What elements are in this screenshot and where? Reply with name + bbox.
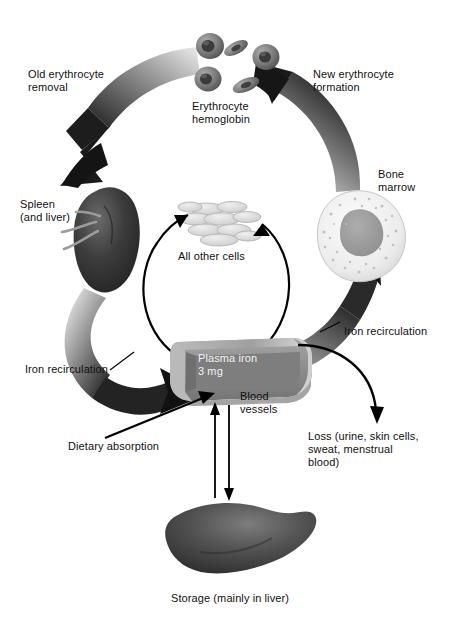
label-all-other-cells: All other cells bbox=[178, 250, 288, 263]
label-plasma-iron: Plasma iron 3 mg bbox=[198, 352, 294, 378]
liver-organ bbox=[165, 503, 316, 574]
flow-liver-exchange bbox=[215, 405, 229, 498]
bone-marrow-cell bbox=[317, 191, 405, 282]
label-old-erythrocyte-removal: Old erythrocyte removal bbox=[28, 68, 138, 94]
label-iron-recirculation-left: Iron recirculation bbox=[0, 363, 108, 376]
label-spleen-and-liver: Spleen (and liver) bbox=[20, 198, 98, 224]
all-other-cells-cluster bbox=[178, 202, 261, 247]
label-storage: Storage (mainly in liver) bbox=[130, 592, 330, 605]
plasma-to-liver-arrowhead bbox=[224, 488, 234, 501]
label-new-erythrocyte-formation: New erythrocyte formation bbox=[313, 68, 433, 94]
label-dietary-absorption: Dietary absorption bbox=[68, 440, 198, 453]
label-bone-marrow: Bone marrow bbox=[378, 168, 448, 194]
label-loss: Loss (urine, skin cells, sweat, menstrua… bbox=[308, 430, 458, 469]
iron-cycle-diagram: Old erythrocyte removal New erythrocyte … bbox=[0, 0, 458, 623]
label-iron-recirculation-right: Iron recirculation bbox=[344, 325, 458, 338]
label-blood-vessels: Blood vessels bbox=[240, 390, 310, 416]
label-erythrocyte-hemoglobin: Erythrocyte hemoglobin bbox=[192, 100, 302, 126]
